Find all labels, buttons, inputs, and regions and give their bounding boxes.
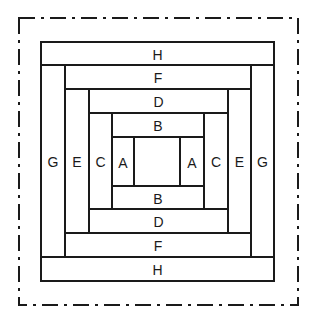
strip-label: A [118,155,128,171]
strip-label: F [154,70,163,86]
strip-label: B [153,118,162,134]
strip-label: C [95,154,105,170]
strip-label: A [187,155,197,171]
strip-label: B [153,191,162,207]
strip-center [134,137,180,186]
strip-label: E [235,154,244,170]
strip-label: H [152,262,162,278]
strip-label: C [211,154,221,170]
quilt-strips: HHGGFFEEDDCCBBAA [41,42,274,281]
strip-label: G [257,154,268,170]
strip-label: D [153,214,163,230]
log-cabin-diagram: HHGGFFEEDDCCBBAA [0,0,318,328]
strip-label: G [48,154,59,170]
strip-label: H [152,47,162,63]
strip-label: E [72,154,81,170]
strip-label: F [154,238,163,254]
strip-label: D [153,94,163,110]
